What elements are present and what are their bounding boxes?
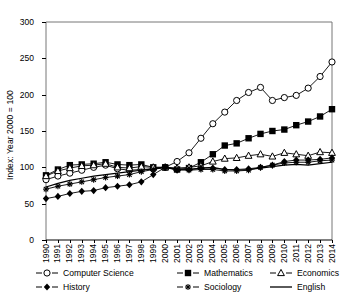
legend-label: Mathematics	[204, 268, 253, 278]
x-tick-mark	[177, 240, 178, 243]
data-point-filled-diamond	[79, 188, 85, 195]
plot-area: Index: Year 2000 = 100 05010015020025030…	[0, 0, 350, 250]
x-tick-label: 2010	[280, 244, 289, 263]
y-tick-label: 250	[8, 54, 34, 62]
x-tick-label: 1995	[101, 244, 110, 263]
legend-item-sociology[interactable]: Sociology	[175, 282, 241, 292]
series-sociology	[43, 157, 335, 192]
data-point-open-circle	[210, 121, 216, 127]
data-point-filled-square	[293, 122, 299, 128]
x-tick-label: 1994	[89, 244, 98, 263]
data-point-open-circle	[186, 150, 192, 156]
y-tick-label: 100	[8, 163, 34, 171]
x-tick-label: 2007	[244, 244, 253, 263]
y-tick-mark	[42, 204, 46, 205]
x-tick-mark	[141, 240, 142, 243]
data-point-open-circle	[234, 97, 240, 103]
data-point-asterisk	[67, 181, 73, 187]
x-tick-mark	[284, 240, 285, 243]
x-tick-label: 2006	[232, 244, 241, 263]
legend-label: English	[297, 282, 325, 292]
legend-label: Computer Science	[63, 268, 134, 278]
legend-key-open-triangle	[268, 268, 294, 278]
data-point-filled-square	[329, 106, 335, 112]
data-point-filled-square	[269, 128, 275, 134]
x-tick-mark	[70, 240, 71, 243]
chart-figure: Index: Year 2000 = 100 05010015020025030…	[0, 0, 350, 308]
data-point-open-triangle	[281, 149, 288, 155]
data-point-open-circle	[222, 109, 228, 115]
x-tick-mark	[261, 240, 262, 243]
x-tick-label: 2012	[304, 244, 313, 263]
data-point-open-triangle	[278, 269, 285, 275]
data-point-filled-square	[305, 118, 311, 124]
x-tick-mark	[94, 240, 95, 243]
x-tick-label: 2013	[316, 244, 325, 263]
x-tick-mark	[153, 240, 154, 243]
x-tick-label: 2001	[173, 244, 182, 263]
y-tick-label: 150	[8, 127, 34, 135]
data-point-open-circle	[329, 59, 335, 65]
data-point-filled-diamond	[43, 195, 49, 202]
data-point-asterisk	[185, 284, 191, 290]
x-tick-mark	[308, 240, 309, 243]
legend-label: Economics	[297, 268, 339, 278]
legend-item-mathematics[interactable]: Mathematics	[175, 268, 253, 278]
legend-item-history[interactable]: History	[34, 282, 90, 292]
x-tick-mark	[201, 240, 202, 243]
data-point-filled-square	[210, 151, 216, 157]
data-point-filled-diamond	[138, 178, 144, 185]
data-point-filled-square	[257, 131, 263, 137]
data-point-open-circle	[317, 73, 323, 79]
x-tick-mark	[118, 240, 119, 243]
data-point-open-triangle	[257, 151, 264, 157]
x-tick-label: 1991	[53, 244, 62, 263]
x-tick-label: 2004	[208, 244, 217, 263]
data-point-open-circle	[281, 94, 287, 100]
x-tick-label: 2005	[220, 244, 229, 263]
data-point-open-circle	[269, 97, 275, 103]
x-tick-mark	[237, 240, 238, 243]
data-point-filled-diamond	[114, 183, 120, 190]
x-tick-label: 2014	[328, 244, 337, 263]
data-point-filled-square	[233, 140, 239, 146]
x-tick-mark	[249, 240, 250, 243]
y-tick-mark	[42, 58, 46, 59]
series-history	[43, 154, 335, 202]
x-tick-mark	[332, 240, 333, 243]
x-tick-label: 2011	[292, 244, 301, 262]
legend-key-filled-diamond	[34, 282, 60, 292]
data-point-filled-diamond	[67, 190, 73, 197]
legend-key-open-circle	[34, 268, 60, 278]
x-tick-mark	[46, 240, 47, 243]
y-tick-mark	[42, 131, 46, 132]
x-tick-label: 1999	[149, 244, 158, 263]
x-tick-mark	[165, 240, 166, 243]
data-point-open-circle	[305, 85, 311, 91]
legend-label: History	[63, 282, 90, 292]
x-tick-label: 2000	[161, 244, 170, 263]
y-tick-label: 50	[8, 200, 34, 208]
legend-label: Sociology	[204, 282, 241, 292]
plot-canvas	[0, 0, 350, 250]
legend-key-filled-square	[175, 268, 201, 278]
x-tick-label: 2003	[196, 244, 205, 263]
data-point-filled-diamond	[55, 193, 61, 200]
x-tick-label: 1992	[65, 244, 74, 263]
legend-item-computer-science[interactable]: Computer Science	[34, 268, 134, 278]
x-tick-label: 1996	[113, 244, 122, 263]
data-point-asterisk	[91, 177, 97, 183]
legend-key-none	[268, 282, 294, 292]
data-point-filled-square	[281, 126, 287, 132]
legend-item-economics[interactable]: Economics	[268, 268, 339, 278]
x-tick-mark	[129, 240, 130, 243]
data-point-filled-diamond	[44, 283, 50, 290]
data-point-filled-square	[245, 135, 251, 141]
y-tick-label: 300	[8, 18, 34, 26]
legend-item-english[interactable]: English	[268, 282, 325, 292]
data-point-open-circle	[245, 89, 251, 95]
x-tick-label: 2008	[256, 244, 265, 263]
data-point-open-circle	[198, 135, 204, 141]
data-point-filled-diamond	[126, 181, 132, 188]
legend-key-asterisk	[175, 282, 201, 292]
